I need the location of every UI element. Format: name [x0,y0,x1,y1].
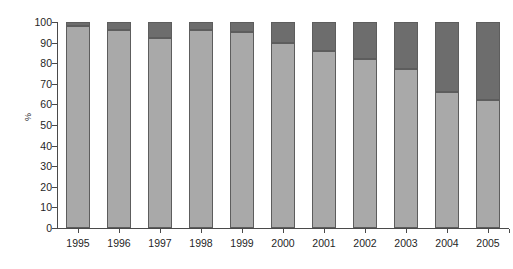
bar-segment-lower-segment[interactable] [148,38,172,228]
x-axis-tick-label: 1998 [179,237,223,249]
bar-segment-lower-segment[interactable] [271,43,295,228]
x-axis-tick-label: 1999 [220,237,264,249]
bar-segment-lower-segment[interactable] [189,30,213,228]
bar-segment-upper-segment[interactable] [435,22,459,92]
x-axis-tick-mark [447,229,448,233]
bar-segment-upper-segment[interactable] [312,22,336,51]
x-axis-tick-label: 2003 [384,237,428,249]
x-axis-tick-label: 2004 [425,237,469,249]
bar-segment-upper-segment[interactable] [353,22,377,59]
bar-segment-upper-segment[interactable] [476,22,500,100]
x-axis-tick-label: 1997 [138,237,182,249]
bar-segment-lower-segment[interactable] [476,100,500,228]
bar-segment-lower-segment[interactable] [312,51,336,228]
plot-area [57,22,509,228]
bar-segment-lower-segment[interactable] [394,69,418,228]
x-axis-tick-label: 2002 [343,237,387,249]
stacked-bar-chart: % 1009080706050403020100 199519961997199… [0,0,513,269]
x-axis-tick-mark [283,229,284,233]
x-axis-tick-mark [78,229,79,233]
x-axis-tick-mark [509,229,510,233]
x-axis-tick-label: 1995 [56,237,100,249]
bar-segment-upper-segment[interactable] [271,22,295,43]
y-axis-tick-label: 40 [40,140,52,152]
bar-segment-upper-segment[interactable] [189,22,213,30]
y-axis-ticks: 1009080706050403020100 [0,0,60,269]
y-axis-tick-label: 30 [40,160,52,172]
bar-segment-upper-segment[interactable] [394,22,418,69]
bar-segment-lower-segment[interactable] [435,92,459,228]
x-axis-tick-mark [324,229,325,233]
bar-segment-lower-segment[interactable] [66,26,90,228]
bar-segment-upper-segment[interactable] [148,22,172,38]
y-axis-tick-label: 10 [40,201,52,213]
x-axis-tick-mark [488,229,489,233]
bar-segment-lower-segment[interactable] [230,32,254,228]
bar-segment-upper-segment[interactable] [66,22,90,26]
y-axis-tick-label: 80 [40,57,52,69]
x-axis-tick-label: 2001 [302,237,346,249]
bar-segment-lower-segment[interactable] [353,59,377,228]
x-axis-tick-mark [160,229,161,233]
bar-segment-upper-segment[interactable] [230,22,254,32]
y-axis-tick-label: 20 [40,181,52,193]
y-axis-tick-label: 50 [40,119,52,131]
x-axis-tick-label: 1996 [97,237,141,249]
bar-segment-lower-segment[interactable] [107,30,131,228]
x-axis-tick-mark [406,229,407,233]
x-axis-tick-label: 2005 [466,237,510,249]
y-axis-tick-label: 70 [40,78,52,90]
y-axis-tick-label: 90 [40,37,52,49]
x-axis-tick-mark [242,229,243,233]
y-axis-tick-label: 60 [40,98,52,110]
y-axis-tick-label: 100 [34,16,52,28]
x-axis-tick-label: 2000 [261,237,305,249]
bar-segment-upper-segment[interactable] [107,22,131,30]
x-axis-tick-mark [119,229,120,233]
x-axis-tick-mark [365,229,366,233]
x-axis-tick-mark [201,229,202,233]
